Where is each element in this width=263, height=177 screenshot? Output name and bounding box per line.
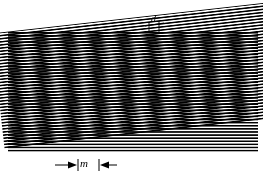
pitch-marker: d	[142, 13, 168, 37]
moire-figure: m d	[0, 0, 263, 177]
reference-grating-lines	[8, 32, 258, 152]
pitch-label: d	[151, 14, 156, 24]
fringe-spacing-marker: m	[55, 157, 117, 173]
fringe-spacing-label: m	[80, 158, 88, 169]
reference-grating	[8, 32, 258, 152]
